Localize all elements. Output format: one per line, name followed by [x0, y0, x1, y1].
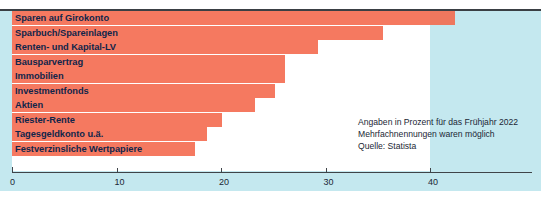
bar-row: Renten- und Kapital-LV [12, 40, 532, 54]
bar-category-label: Bausparvertrag [15, 55, 83, 69]
bar-category-label: Renten- und Kapital-LV [15, 40, 116, 54]
x-axis-tick-label: 10 [115, 177, 125, 187]
bar-row: Immobilien [12, 69, 532, 83]
x-axis-tick-mark [326, 168, 327, 173]
bar-row: Sparen auf Girokonto [12, 11, 532, 25]
bar-category-label: Investmentfonds [15, 84, 89, 98]
bar-row: Sparbuch/Spareinlagen [12, 26, 532, 40]
annotation-line-1: Angaben in Prozent für das Frühjahr 2022 [358, 117, 518, 129]
x-axis-tick-label: 0 [10, 177, 15, 187]
x-axis-tick-label: 20 [219, 177, 229, 187]
x-axis-tick-label: 30 [324, 177, 334, 187]
bar-category-label: Festverzinsliche Wertpapiere [15, 142, 142, 156]
annotation-line-3: Quelle: Statista [358, 141, 518, 153]
chart-annotation: Angaben in Prozent für das Frühjahr 2022… [358, 117, 518, 152]
bar-row: Bausparvertrag [12, 55, 532, 69]
x-axis-tick-mark [117, 168, 118, 173]
bar-category-label: Aktien [15, 98, 43, 112]
bar-category-label: Tagesgeldkonto u.ä. [15, 127, 103, 141]
x-axis-left-cap [12, 167, 13, 173]
bar-row: Aktien [12, 98, 532, 112]
x-axis-tick-mark [221, 168, 222, 173]
bar-fill [12, 98, 255, 112]
x-axis-line [12, 172, 532, 173]
bar-row: Investmentfonds [12, 84, 532, 98]
x-axis-tick-mark [430, 168, 431, 173]
chart-container: Sparen auf GirokontoSparbuch/Spareinlage… [0, 0, 541, 198]
bar-category-label: Immobilien [15, 69, 64, 83]
bar-category-label: Riester-Rente [15, 113, 75, 127]
bar-category-label: Sparen auf Girokonto [15, 11, 109, 25]
bar-category-label: Sparbuch/Spareinlagen [15, 26, 118, 40]
annotation-line-2: Mehrfachnennungen waren möglich [358, 129, 518, 141]
x-axis-tick-label: 40 [428, 177, 438, 187]
